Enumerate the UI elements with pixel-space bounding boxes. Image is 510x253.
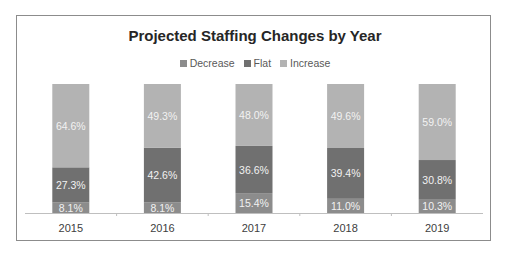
data-label-flat-2015: 27.3% bbox=[56, 179, 86, 191]
data-label-flat-2018: 39.4% bbox=[331, 167, 361, 179]
data-label-flat-2017: 36.6% bbox=[239, 164, 269, 176]
data-label-increase-2019: 59.0% bbox=[422, 116, 452, 128]
plot-area: 8.1%27.3%64.6%20158.1%42.6%49.3%201615.4… bbox=[0, 0, 510, 253]
data-label-increase-2018: 49.6% bbox=[331, 110, 361, 122]
data-label-increase-2015: 64.6% bbox=[56, 120, 86, 132]
data-label-decrease-2016: 8.1% bbox=[150, 202, 174, 214]
data-label-decrease-2019: 10.3% bbox=[422, 200, 452, 212]
x-tick-label-2019: 2019 bbox=[425, 222, 449, 234]
x-tick-label-2018: 2018 bbox=[333, 222, 357, 234]
data-label-decrease-2017: 15.4% bbox=[239, 197, 269, 209]
data-label-flat-2019: 30.8% bbox=[422, 174, 452, 186]
data-label-flat-2016: 42.6% bbox=[148, 169, 178, 181]
data-label-increase-2016: 49.3% bbox=[148, 110, 178, 122]
data-label-decrease-2018: 11.0% bbox=[331, 200, 360, 212]
data-label-increase-2017: 48.0% bbox=[239, 109, 269, 121]
x-tick-label-2017: 2017 bbox=[242, 222, 266, 234]
data-label-decrease-2015: 8.1% bbox=[59, 202, 83, 214]
x-tick-label-2016: 2016 bbox=[150, 222, 174, 234]
x-tick-label-2015: 2015 bbox=[59, 222, 83, 234]
